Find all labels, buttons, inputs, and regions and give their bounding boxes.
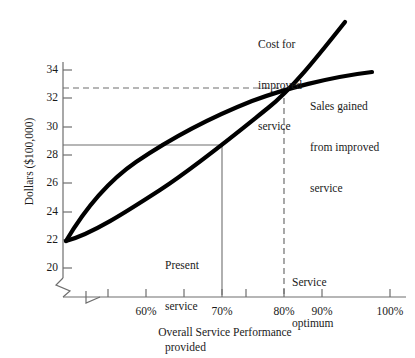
y-tick-label-34: 34 [20,63,58,76]
present-service-label: Present service provided [165,232,206,358]
service-optimum-label-line-2: optimum [292,317,334,331]
x-tick-label-70: 70% [202,305,242,318]
y-axis-break-icon [56,278,70,297]
service-optimum-label-line-1: Service [292,276,334,290]
cost-curve-label-line-2: improved [258,79,302,93]
sales-curve-label-line-3: service [310,182,379,196]
sales-curve-label-line-1: Sales gained [310,100,379,114]
y-axis-title: Dollars ($100,000) [23,96,36,226]
present-service-label-line-1: Present [165,259,206,273]
x-tick-label-100: 100% [367,305,413,318]
cost-curve-label: Cost for improved service [258,11,302,160]
cost-for-improved-service-curve [66,22,345,241]
present-service-label-line-2: service [165,300,206,314]
present-service-label-line-3: provided [165,341,206,355]
sales-curve-label-line-2: from improved [310,141,379,155]
sales-curve-label: Sales gained from improved service [310,73,379,222]
service-optimum-label: Service optimum [292,249,334,358]
cost-curve-label-line-1: Cost for [258,38,302,52]
y-tick-label-22: 22 [20,233,58,246]
y-tick-label-20: 20 [20,261,58,274]
x-tick-label-60: 60% [126,305,166,318]
cost-curve-label-line-3: service [258,120,302,134]
